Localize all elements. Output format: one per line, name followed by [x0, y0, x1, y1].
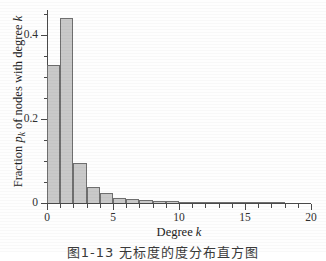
bar	[126, 199, 139, 203]
x-axis-minor-tick	[219, 204, 220, 208]
bar	[73, 163, 86, 203]
x-axis-tick	[47, 204, 48, 210]
x-axis-tick	[179, 204, 180, 210]
x-axis-tick	[113, 204, 114, 210]
x-axis-minor-tick	[271, 204, 272, 208]
x-axis-minor-tick	[258, 204, 259, 208]
x-axis-minor-tick	[298, 204, 299, 208]
bar	[219, 202, 232, 203]
x-axis-minor-tick	[205, 204, 206, 208]
x-axis-minor-tick	[126, 204, 127, 208]
bar	[153, 201, 166, 203]
bar	[139, 200, 152, 203]
x-axis-tick-label: 5	[110, 212, 116, 224]
x-axis-title-symbol: k	[196, 225, 202, 239]
y-axis-title-part2: of nodes with degree	[11, 21, 25, 132]
bar	[245, 202, 258, 203]
bar	[179, 202, 192, 203]
y-axis-title-symbol: p	[11, 136, 25, 142]
y-axis-title-subscript: k	[17, 132, 27, 136]
bar	[87, 187, 100, 203]
x-axis-minor-tick	[60, 204, 61, 208]
bar	[205, 202, 218, 203]
x-axis-minor-tick	[139, 204, 140, 208]
bar	[47, 65, 60, 203]
bar	[232, 202, 245, 203]
bar	[192, 202, 205, 203]
y-axis-title-symbol2: k	[11, 16, 25, 22]
x-axis-tick-label: 20	[305, 212, 317, 224]
x-axis-tick-label: 0	[44, 212, 50, 224]
x-axis-title: Degree k	[47, 225, 311, 240]
x-axis-minor-tick	[192, 204, 193, 208]
figure-caption: 图1-13 无标度的度分布直方图	[0, 242, 326, 261]
bar	[100, 193, 113, 203]
x-axis-minor-tick	[100, 204, 101, 208]
bar	[166, 201, 179, 203]
bar	[60, 18, 73, 203]
x-axis-tick	[245, 204, 246, 210]
x-axis-tick-label: 15	[239, 212, 251, 224]
x-axis-minor-tick	[166, 204, 167, 208]
x-axis-tick	[311, 204, 312, 210]
x-axis-minor-tick	[73, 204, 74, 208]
x-axis-minor-tick	[153, 204, 154, 208]
bar-series	[47, 10, 311, 203]
bar	[258, 202, 271, 203]
x-axis-minor-tick	[285, 204, 286, 208]
x-axis-minor-tick	[232, 204, 233, 208]
x-axis-minor-tick	[87, 204, 88, 208]
x-axis-tick-label: 10	[173, 212, 185, 224]
plot-area	[47, 10, 311, 203]
bar	[271, 202, 284, 203]
y-axis-title-part1: Fraction	[11, 143, 25, 188]
y-axis-title: Fraction pk of nodes with degree k	[11, 2, 26, 202]
x-axis-title-text: Degree	[157, 225, 196, 239]
bar	[113, 198, 126, 203]
